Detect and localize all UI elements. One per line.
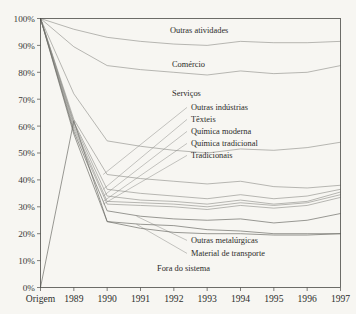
x-tick-label: Origem <box>26 293 56 304</box>
y-tick-label: 30% <box>18 202 35 212</box>
y-tick-label: 40% <box>18 175 35 185</box>
y-tick-label: 80% <box>18 68 35 78</box>
x-tick-label: 1997 <box>331 293 350 304</box>
y-tick-label: 10% <box>18 256 35 266</box>
line-chart: 0%10%20%30%40%50%60%70%80%90%100% Origem… <box>0 0 356 314</box>
series-label-outras-metalúrgicas: Outras metalúrgicas <box>191 236 258 245</box>
x-tick-label: 1990 <box>98 293 117 304</box>
series-label-outras-indústrias: Outras indústrias <box>191 103 248 112</box>
x-tick-label: 1995 <box>264 293 283 304</box>
y-tick-label: 70% <box>18 95 35 105</box>
series-label-material-de-transporte: Material de transporte <box>191 249 265 258</box>
x-tick-label: 1994 <box>231 293 250 304</box>
series-label-tradicionais: Tradicionais <box>191 151 233 160</box>
y-tick-label: 60% <box>18 122 35 132</box>
y-tick-label: 50% <box>18 148 35 158</box>
series-label-fora-do-sistema: Fora do sistema <box>157 264 210 273</box>
series-label-comércio: Comércio <box>172 60 205 69</box>
y-tick-label: 90% <box>18 41 35 51</box>
x-tick-label: 1993 <box>198 293 217 304</box>
series-label-serviços: Serviços <box>172 89 201 98</box>
series-label-têxteis: Têxteis <box>191 115 216 124</box>
x-tick-label: 1989 <box>64 293 83 304</box>
series-label-outras-atividades: Outras atividades <box>170 26 228 35</box>
series-label-química-tradicional: Química tradicional <box>191 139 258 148</box>
x-tick-label: 1992 <box>164 293 183 304</box>
chart-canvas: 0%10%20%30%40%50%60%70%80%90%100% Origem… <box>0 0 356 314</box>
x-tick-label: 1996 <box>298 293 317 304</box>
y-tick-label: 20% <box>18 229 35 239</box>
y-tick-label: 100% <box>14 14 36 24</box>
y-tick-label: 0% <box>23 283 36 293</box>
x-tick-label: 1991 <box>131 293 150 304</box>
series-label-química-moderna: Química moderna <box>191 127 252 136</box>
